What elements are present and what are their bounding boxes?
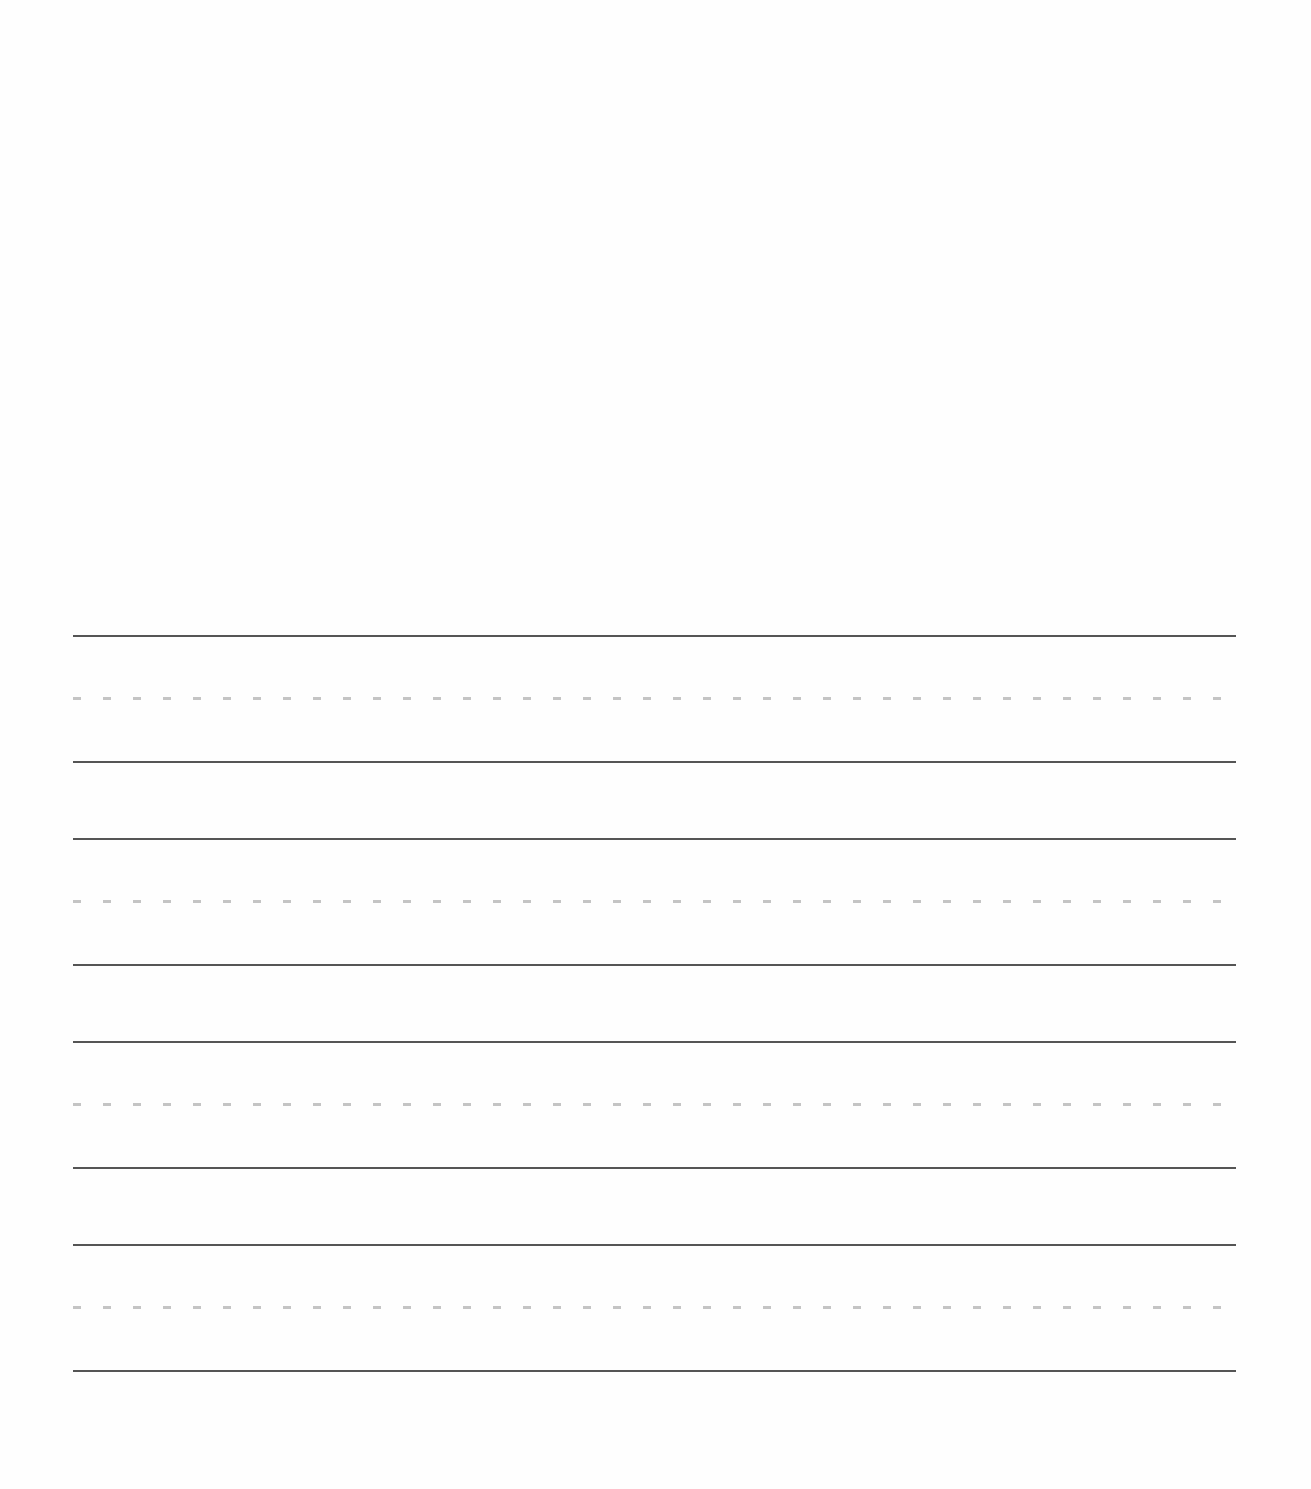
baseline: [73, 1370, 1236, 1372]
writing-line-set-2: [73, 838, 1236, 968]
dashed-midline: [73, 697, 1236, 700]
dashed-midline: [73, 900, 1236, 903]
headline: [73, 1041, 1236, 1043]
writing-line-set-4: [73, 1244, 1236, 1374]
practice-sheet: [0, 0, 1311, 1489]
dashed-midline: [73, 1306, 1236, 1309]
writing-line-set-1: [73, 635, 1236, 765]
baseline: [73, 964, 1236, 966]
dashed-midline: [73, 1103, 1236, 1106]
baseline: [73, 1167, 1236, 1169]
headline: [73, 838, 1236, 840]
writing-line-set-3: [73, 1041, 1236, 1171]
baseline: [73, 761, 1236, 763]
headline: [73, 635, 1236, 637]
headline: [73, 1244, 1236, 1246]
